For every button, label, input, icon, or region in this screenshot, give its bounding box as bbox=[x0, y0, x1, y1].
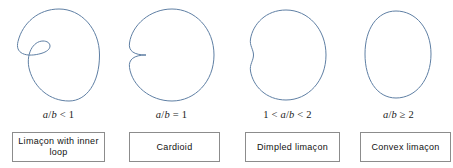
ratio-suffix: ≥ 2 bbox=[397, 109, 414, 120]
limacon-classification-figure: a/b < 1 a/b = 1 1 < a/b < 2 bbox=[0, 0, 453, 168]
ratio-suffix: = 1 bbox=[170, 109, 187, 120]
curve-convex bbox=[345, 3, 453, 107]
curve-dimpled-svg bbox=[234, 3, 342, 107]
ratio-label-inner-loop: a/b < 1 bbox=[43, 108, 74, 123]
curve-name-box-inner-loop: Limaçon with inner loop bbox=[12, 132, 105, 162]
curve-cardioid-path bbox=[129, 9, 214, 101]
curve-name-box-dimpled: Dimpled limaçon bbox=[245, 132, 340, 162]
ratio-suffix: < 2 bbox=[295, 109, 312, 120]
ratio-label-dimpled: 1 < a/b < 2 bbox=[263, 108, 312, 123]
ratio-prefix: 1 < bbox=[263, 109, 280, 120]
curve-name-box-cardioid: Cardioid bbox=[129, 132, 220, 162]
curve-inner-loop-svg bbox=[5, 3, 113, 107]
ratio-label-cardioid: a/b = 1 bbox=[156, 108, 187, 123]
curve-cardioid bbox=[118, 3, 226, 107]
ratio-suffix: < 1 bbox=[57, 109, 74, 120]
curve-dimpled bbox=[234, 3, 342, 107]
curve-name-box-convex: Convex limaçon bbox=[360, 132, 451, 162]
curve-convex-path bbox=[365, 11, 431, 98]
ratio-label-convex: a/b ≥ 2 bbox=[383, 108, 414, 123]
curve-convex-svg bbox=[345, 3, 453, 107]
curve-inner-loop bbox=[5, 3, 113, 107]
curve-dimpled-path bbox=[250, 10, 326, 100]
curve-inner-loop-path bbox=[17, 9, 99, 101]
curve-cardioid-svg bbox=[118, 3, 226, 107]
